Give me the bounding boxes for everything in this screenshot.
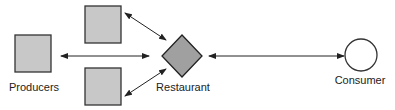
producers-label: Producers: [9, 81, 59, 93]
edge-producer-top-restaurant: [125, 13, 166, 40]
producer-main-node: [15, 35, 51, 72]
producer-bottom-node: [85, 68, 121, 105]
diagram-canvas: [0, 0, 395, 110]
restaurant-label: Restaurant: [156, 81, 210, 93]
producer-top-node: [85, 6, 121, 43]
consumer-label: Consumer: [335, 74, 386, 86]
consumer-node: [345, 39, 377, 71]
restaurant-node: [162, 35, 202, 77]
